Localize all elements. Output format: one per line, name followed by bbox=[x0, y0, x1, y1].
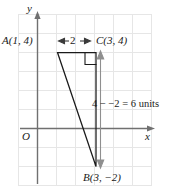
origin-label: O bbox=[22, 131, 30, 142]
coordinate-plane-figure: --> A(1, 4) C(3, 4) B(3, −2) 2 4 − −2 = … bbox=[0, 0, 193, 194]
y-axis-label: y bbox=[27, 3, 32, 14]
figure-canvas: --> bbox=[0, 0, 193, 194]
point-label-a: A(1, 4) bbox=[2, 35, 33, 46]
point-label-c: C(3, 4) bbox=[96, 35, 127, 46]
point-label-b: B(3, −2) bbox=[83, 172, 121, 183]
x-axis-label: x bbox=[145, 131, 150, 142]
vertical-measure-label: 4 − −2 = 6 units bbox=[92, 99, 159, 110]
horizontal-measure-label: 2 bbox=[70, 35, 76, 46]
